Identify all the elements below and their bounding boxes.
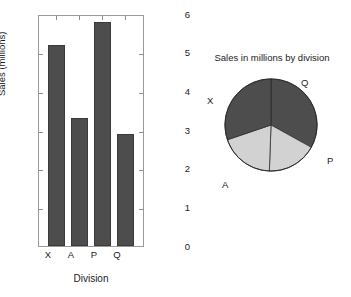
x-tick-label-p: P [85, 250, 103, 260]
x-tick-label-a: A [62, 250, 80, 260]
pie-label-p: P [327, 156, 333, 166]
bar-chart-x-axis-title: Division [38, 273, 144, 284]
y-tick-mark-2 [39, 170, 43, 171]
y-tick-label-5: 5 [164, 48, 190, 58]
bar-x [48, 45, 65, 246]
pie-label-a: A [222, 180, 228, 190]
bar-q [117, 134, 134, 246]
pie-label-x: X [207, 96, 213, 106]
bar-chart-plot-area [38, 15, 144, 247]
x-tick-label-x: X [39, 250, 57, 260]
y-tick-mark-right-3 [139, 132, 143, 133]
y-tick-mark-5 [39, 54, 43, 55]
pie-chart-graphic [223, 77, 319, 173]
bar-p [94, 22, 111, 246]
x-tick-mark-top-3 [102, 16, 103, 20]
bar-chart-y-axis-title: Sales (millions) [0, 32, 7, 96]
y-tick-mark-right-2 [139, 170, 143, 171]
y-tick-label-2: 2 [164, 164, 190, 174]
y-tick-label-3: 3 [164, 126, 190, 136]
x-tick-mark-top-2 [79, 16, 80, 20]
y-tick-label-6: 6 [164, 10, 190, 20]
pie-label-q: Q [301, 78, 308, 88]
x-tick-label-q: Q [108, 250, 126, 260]
y-tick-label-4: 4 [164, 87, 190, 97]
bar-chart-figure: Sales (millions) 6 5 4 3 2 1 0 X A [0, 0, 190, 290]
y-tick-mark-right-1 [139, 209, 143, 210]
bar-a [71, 118, 88, 246]
y-tick-label-1: 1 [164, 203, 190, 213]
y-tick-label-0: 0 [164, 242, 190, 252]
y-tick-mark-right-4 [139, 93, 143, 94]
x-tick-mark-top-1 [56, 16, 57, 20]
x-tick-mark-top-4 [125, 16, 126, 20]
y-tick-mark-1 [39, 209, 43, 210]
y-tick-mark-4 [39, 93, 43, 94]
pie-chart-figure: Sales in millions by division X Q P A [196, 52, 351, 212]
y-tick-mark-right-5 [139, 54, 143, 55]
y-tick-mark-3 [39, 132, 43, 133]
pie-chart-title: Sales in millions by division [196, 52, 348, 63]
